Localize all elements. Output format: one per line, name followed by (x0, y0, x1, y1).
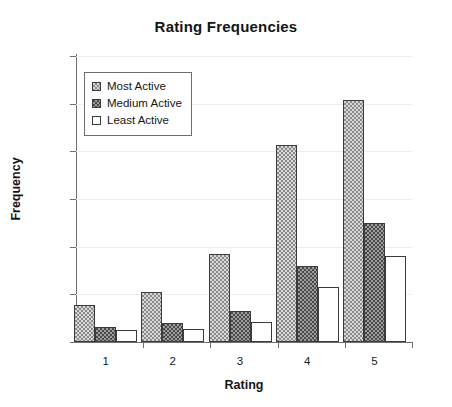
x-axis-line (76, 342, 413, 343)
legend-item-least-active[interactable]: Least Active (92, 112, 182, 129)
bar[interactable] (95, 327, 116, 342)
x-axis-title: Rating (76, 378, 412, 392)
legend-swatch-icon (92, 116, 101, 125)
y-tick-mark (70, 104, 76, 105)
x-tick-mark (143, 342, 144, 348)
legend-label: Most Active (107, 81, 166, 93)
x-tick-label: 3 (220, 355, 260, 367)
bar[interactable] (162, 323, 183, 342)
bar[interactable] (116, 330, 137, 342)
x-tick-label: 1 (86, 355, 126, 367)
chart-figure: Rating Frequencies Frequency Rating Most… (0, 0, 452, 407)
y-tick-mark (70, 151, 76, 152)
x-tick-label: 5 (354, 355, 394, 367)
chart-legend: Most Active Medium Active Least Active (84, 72, 192, 136)
y-tick-mark (70, 199, 76, 200)
chart-title: Rating Frequencies (0, 18, 452, 35)
bar[interactable] (297, 266, 318, 342)
bar[interactable] (251, 322, 272, 342)
legend-item-most-active[interactable]: Most Active (92, 78, 182, 95)
x-tick-mark (345, 342, 346, 348)
bar[interactable] (364, 223, 385, 342)
x-tick-mark (412, 342, 413, 348)
y-tick-mark (70, 247, 76, 248)
gridline (76, 56, 412, 57)
bar[interactable] (276, 145, 297, 342)
legend-label: Medium Active (107, 98, 182, 110)
y-axis-title: Frequency (9, 129, 23, 249)
bar[interactable] (230, 311, 251, 342)
bar[interactable] (209, 254, 230, 342)
x-tick-label: 2 (153, 355, 193, 367)
legend-label: Least Active (107, 115, 169, 127)
legend-swatch-icon (92, 82, 101, 91)
bar[interactable] (318, 287, 339, 342)
x-tick-mark (278, 342, 279, 348)
y-tick-mark (70, 342, 76, 343)
bar[interactable] (183, 329, 204, 342)
bar[interactable] (141, 292, 162, 342)
bar[interactable] (74, 305, 95, 342)
bar[interactable] (343, 100, 364, 342)
bar[interactable] (385, 256, 406, 342)
x-tick-label: 4 (287, 355, 327, 367)
legend-item-medium-active[interactable]: Medium Active (92, 95, 182, 112)
y-tick-mark (70, 294, 76, 295)
legend-swatch-icon (92, 99, 101, 108)
x-tick-mark (210, 342, 211, 348)
y-tick-mark (70, 56, 76, 57)
